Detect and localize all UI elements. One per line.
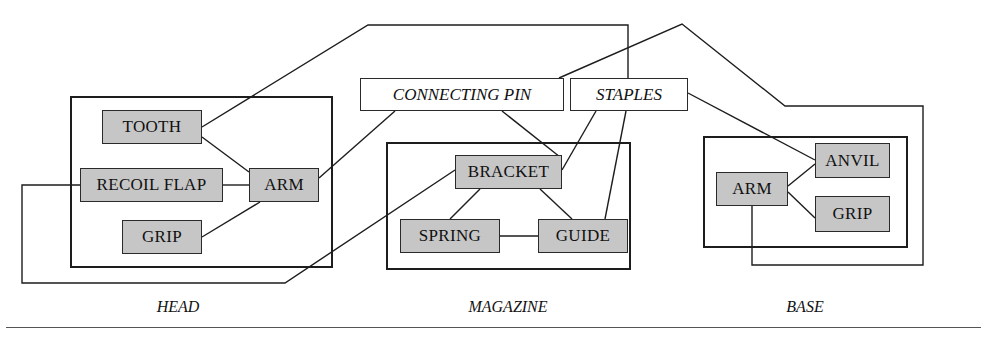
diagram-canvas: TOOTHRECOIL FLAPGRIPARMBRACKETSPRINGGUID… (0, 0, 987, 345)
bottom-divider-rule (6, 327, 981, 328)
node-label: GRIP (142, 227, 182, 247)
interface-node-connecting_pin[interactable]: CONNECTING PIN (360, 78, 564, 111)
node-label: ARM (732, 179, 772, 199)
node-grip_head[interactable]: GRIP (122, 220, 202, 254)
group-label-base: BASE (786, 298, 823, 316)
node-arm_head[interactable]: ARM (249, 168, 319, 202)
node-label: RECOIL FLAP (97, 175, 207, 195)
node-label: TOOTH (123, 117, 182, 137)
group-label-head: HEAD (157, 298, 200, 316)
node-label: GUIDE (556, 226, 610, 246)
group-label-magazine: MAGAZINE (468, 298, 547, 316)
interface-node-staples[interactable]: STAPLES (570, 78, 688, 111)
node-guide[interactable]: GUIDE (538, 219, 628, 253)
node-grip_base[interactable]: GRIP (815, 196, 890, 232)
node-recoil_flap[interactable]: RECOIL FLAP (80, 168, 223, 202)
node-anvil[interactable]: ANVIL (815, 143, 890, 178)
node-label: ANVIL (825, 151, 879, 171)
node-tooth[interactable]: TOOTH (102, 110, 202, 144)
node-label: GRIP (833, 204, 873, 224)
node-label: BRACKET (468, 162, 549, 182)
node-label: ARM (264, 175, 304, 195)
node-label: SPRING (419, 226, 481, 246)
interface-node-label: CONNECTING PIN (393, 85, 531, 105)
node-bracket[interactable]: BRACKET (455, 155, 562, 189)
interface-node-label: STAPLES (596, 85, 662, 105)
node-spring[interactable]: SPRING (400, 219, 500, 253)
node-arm_base[interactable]: ARM (716, 172, 788, 206)
